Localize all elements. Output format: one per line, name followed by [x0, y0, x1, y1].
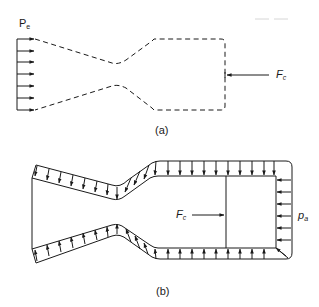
label-sub: c	[283, 74, 287, 81]
diagram-canvas	[0, 0, 319, 307]
caption-a: (a)	[155, 124, 168, 136]
ambient-pressure-label: pa	[298, 210, 308, 222]
figure-a	[17, 19, 292, 110]
chamber-end-arrows	[276, 180, 291, 256]
label-sub: a	[304, 215, 308, 222]
chamber-top-arrows	[168, 161, 274, 175]
chamber-force-label-b: Fc	[176, 209, 186, 221]
figure-b	[32, 161, 292, 263]
exit-pressure-label: Pe	[19, 18, 30, 30]
exit-pressure-arrows	[17, 39, 34, 110]
label-main: F	[176, 208, 183, 220]
chamber-force-label-a: Fc	[276, 69, 286, 81]
chamber-bottom-arrows	[168, 249, 264, 259]
upper-wall-arrows	[35, 161, 156, 199]
label-sub: e	[26, 23, 30, 30]
label-main: F	[276, 68, 283, 80]
nozzle-inner-wall	[32, 176, 276, 249]
label-sub: c	[183, 214, 187, 221]
nozzle-outline-dashed	[35, 39, 225, 110]
caption-b: (b)	[156, 285, 169, 297]
